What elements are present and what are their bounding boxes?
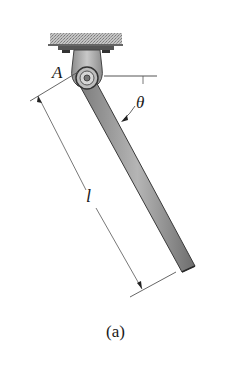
angle-label-theta: θ bbox=[136, 94, 144, 111]
horizontal-reference-line bbox=[104, 76, 157, 84]
length-label-l: l bbox=[86, 187, 91, 205]
figure-caption: (a) bbox=[106, 323, 125, 340]
angle-arrow bbox=[121, 106, 135, 122]
pendulum-diagram bbox=[0, 0, 227, 367]
pin-label-A: A bbox=[52, 64, 62, 81]
pin-joint-A bbox=[76, 67, 98, 89]
